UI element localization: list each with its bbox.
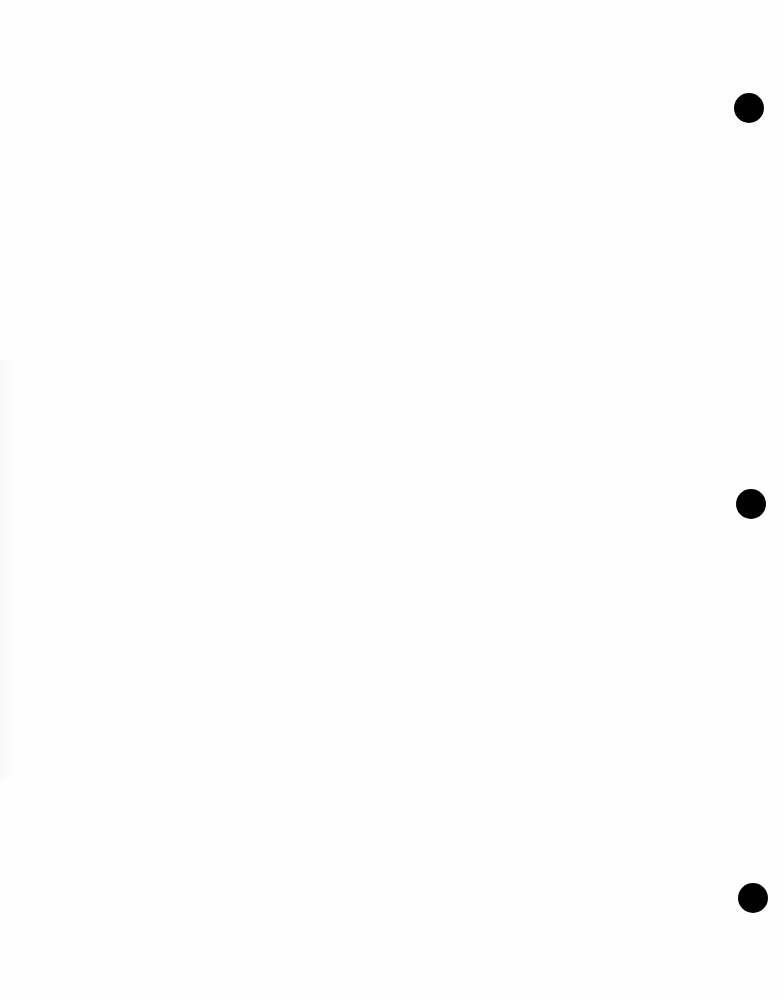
punch-hole-middle	[736, 489, 766, 519]
scan-bleed-through-mark	[0, 360, 14, 780]
blank-document-page	[0, 0, 784, 1001]
punch-hole-top	[734, 93, 764, 123]
punch-hole-bottom	[738, 883, 768, 913]
